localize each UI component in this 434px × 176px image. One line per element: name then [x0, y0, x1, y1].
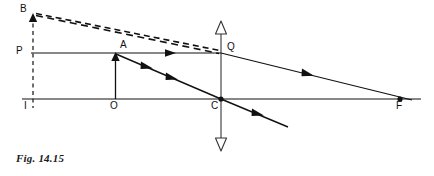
image-arrow-tip-icon [29, 13, 37, 22]
point-label-b: B [20, 4, 27, 14]
virtual-ray-b-to-a [36, 16, 219, 54]
point-label-f: F [396, 101, 402, 111]
virtual-ray-b-to-q [36, 14, 222, 52]
lens-top-arrow-icon [216, 21, 227, 34]
point-label-o: O [110, 101, 118, 111]
ray-diagram-canvas [0, 0, 434, 176]
point-label-c: C [211, 101, 218, 111]
ray-marker-q-to-f-icon [302, 69, 315, 77]
refracted-ray-q-to-f [221, 53, 412, 100]
ray-marker-a-to-c-2-icon [166, 73, 179, 81]
point-label-p: P [16, 46, 23, 56]
lens-bottom-arrow-icon [216, 138, 227, 151]
optics-figure: B P I O A Q C F Fig. 14.15 [0, 0, 434, 176]
ray-marker-c-to-beyond-icon [252, 109, 265, 117]
ray-marker-a-to-q-icon [165, 49, 176, 57]
point-dot-c [218, 96, 223, 101]
point-label-i: I [24, 101, 27, 111]
figure-caption: Fig. 14.15 [16, 152, 64, 164]
ray-marker-a-to-c-1-icon [141, 62, 154, 70]
point-label-q: Q [227, 42, 235, 52]
point-label-a: A [120, 40, 127, 50]
